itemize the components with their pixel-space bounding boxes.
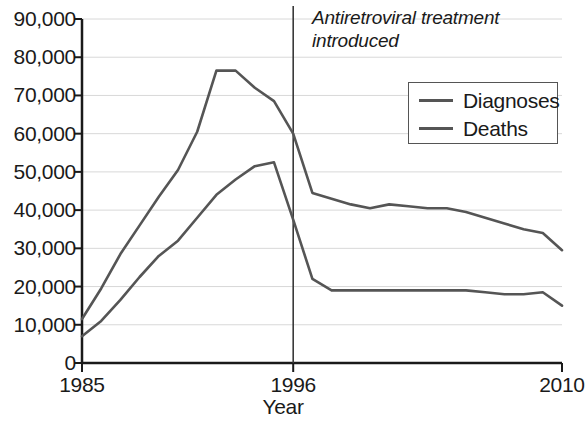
legend-item-diagnoses: Diagnoses — [409, 86, 559, 114]
annotation-line-2: introduced — [312, 29, 548, 52]
x-tick-label: 2010 — [539, 374, 585, 395]
y-tick-label: 80,000 — [14, 46, 76, 67]
y-tick-label: 70,000 — [14, 84, 76, 105]
x-axis-title: Year — [0, 396, 566, 417]
y-tick-label: 50,000 — [14, 161, 76, 182]
y-tick-label: 40,000 — [14, 199, 76, 220]
chart-legend: Diagnoses Deaths — [408, 82, 558, 144]
x-tick-label: 1996 — [270, 374, 316, 395]
legend-label-diagnoses: Diagnoses — [463, 90, 560, 111]
antiretroviral-annotation: Antiretroviral treatment introduced — [312, 6, 548, 52]
series-line-deaths — [82, 162, 562, 336]
y-tick-label: 60,000 — [14, 123, 76, 144]
y-tick-label: 0 — [65, 352, 76, 373]
x-tick-label: 1985 — [59, 374, 105, 395]
y-tick-label: 30,000 — [14, 237, 76, 258]
y-axis-tick-labels: 010,00020,00030,00040,00050,00060,00070,… — [0, 0, 76, 422]
annotation-line-1: Antiretroviral treatment — [312, 6, 548, 29]
y-tick-label: 90,000 — [14, 8, 76, 29]
legend-swatch-deaths — [419, 127, 453, 130]
y-tick-label: 20,000 — [14, 276, 76, 297]
axes — [82, 19, 562, 363]
x-tick-marks — [82, 363, 562, 372]
y-tick-label: 10,000 — [14, 314, 76, 335]
legend-swatch-diagnoses — [419, 99, 453, 102]
legend-label-deaths: Deaths — [463, 118, 528, 139]
gridlines — [82, 19, 562, 325]
legend-item-deaths: Deaths — [409, 114, 559, 142]
